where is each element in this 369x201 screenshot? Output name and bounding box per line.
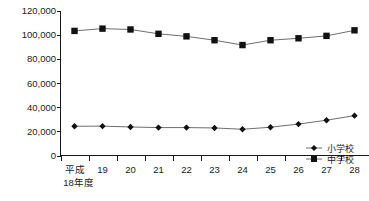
data-point-小学校 — [155, 124, 161, 130]
data-point-小学校 — [99, 123, 105, 129]
legend-marker-中学校 — [311, 156, 317, 162]
data-point-小学校 — [267, 124, 273, 130]
y-axis-tick-labels: 020,00040,00060,00080,000100,000120,000 — [22, 5, 56, 161]
x-axis-tick-label: 25 — [265, 164, 276, 175]
legend-label-小学校: 小学校 — [327, 143, 354, 154]
data-point-中学校 — [239, 42, 245, 48]
legend-marker-小学校 — [311, 145, 317, 151]
x-axis-tick-label: 27 — [321, 164, 332, 175]
x-axis-tick-label: 20 — [125, 164, 136, 175]
data-point-小学校 — [323, 117, 329, 123]
data-point-中学校 — [71, 28, 77, 34]
data-point-中学校 — [267, 37, 273, 43]
y-axis-tick-label: 40,000 — [27, 102, 56, 113]
data-point-小学校 — [183, 124, 189, 130]
x-axis-tick-label: 23 — [209, 164, 220, 175]
data-point-中学校 — [127, 26, 133, 32]
series-lines — [75, 29, 355, 130]
data-point-小学校 — [211, 125, 217, 131]
x-axis-era-sublabel: 18年度 — [63, 177, 94, 188]
data-point-中学校 — [211, 37, 217, 43]
x-axis-tick-label: 24 — [237, 164, 248, 175]
y-axis-tick-marks — [57, 12, 61, 157]
x-axis-tick-label: 22 — [181, 164, 192, 175]
legend-label-中学校: 中学校 — [327, 154, 354, 165]
x-axis-tick-label: 28 — [349, 164, 360, 175]
chart-legend: 小学校中学校 — [306, 143, 354, 165]
x-axis-tick-label: 21 — [153, 164, 164, 175]
data-point-小学校 — [295, 121, 301, 127]
data-point-中学校 — [99, 25, 105, 31]
line-chart: 020,00040,00060,00080,000100,000120,000 … — [0, 0, 369, 201]
data-point-小学校 — [127, 124, 133, 130]
chart-container: 020,00040,00060,00080,000100,000120,000 … — [0, 0, 369, 201]
y-axis-tick-label: 60,000 — [27, 78, 56, 89]
x-axis-tick-marks — [62, 156, 342, 161]
y-axis-tick-label: 100,000 — [22, 29, 56, 40]
data-point-中学校 — [155, 31, 161, 37]
y-axis-tick-label: 80,000 — [27, 53, 56, 64]
data-point-小学校 — [71, 123, 77, 129]
data-point-中学校 — [183, 33, 189, 39]
x-axis-tick-label: 19 — [97, 164, 108, 175]
data-point-小学校 — [351, 112, 357, 118]
data-point-小学校 — [239, 126, 245, 132]
series-markers — [71, 25, 357, 132]
data-point-中学校 — [295, 35, 301, 41]
x-axis-tick-label: 平成 — [65, 164, 85, 175]
y-axis-tick-label: 0 — [51, 150, 56, 161]
y-axis-tick-label: 120,000 — [22, 5, 56, 16]
x-axis-tick-labels: 平成1920212223242526272818年度 — [63, 164, 360, 188]
x-axis-tick-label: 26 — [293, 164, 304, 175]
y-axis-tick-label: 20,000 — [27, 126, 56, 137]
data-point-中学校 — [323, 33, 329, 39]
data-point-中学校 — [351, 27, 357, 33]
